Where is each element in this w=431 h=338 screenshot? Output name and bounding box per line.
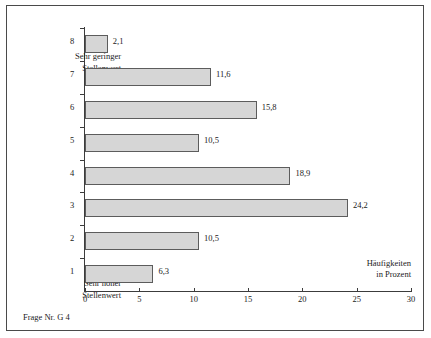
- x-axis-title-line2: in Prozent: [307, 269, 411, 280]
- bar-row: 10,5: [85, 225, 411, 258]
- bar-category-4[interactable]: [85, 167, 290, 185]
- x-axis-tick-25: [357, 288, 358, 292]
- bar-row: 2,1: [85, 28, 411, 61]
- bar-value-label-6: 15,8: [262, 102, 277, 113]
- figure-caption: Frage Nr. G 4: [23, 312, 70, 323]
- figure-container: Sehr geringer Stellenwert Sehr hoher Ste…: [0, 0, 431, 338]
- y-axis-tick: [80, 192, 84, 193]
- bar-category-6[interactable]: [85, 101, 257, 119]
- bar-category-2[interactable]: [85, 232, 199, 250]
- x-axis-title-line1: Häufigkeiten: [307, 258, 411, 269]
- bar-value-label-4: 18,9: [295, 168, 310, 179]
- x-axis-label-25: 25: [344, 294, 370, 305]
- y-axis-tick: [80, 61, 84, 62]
- y-axis-label-3: 3: [65, 200, 79, 211]
- x-axis-label-30: 30: [398, 294, 424, 305]
- bar-value-label-8: 2,1: [113, 36, 124, 47]
- bar-row: 15,8: [85, 94, 411, 127]
- x-axis-label-10: 10: [181, 294, 207, 305]
- plot-area: 6,310,524,218,910,515,811,62,1: [85, 28, 411, 291]
- x-axis-tick-30: [411, 288, 412, 292]
- x-axis-tick-20: [302, 288, 303, 292]
- y-axis-tick: [80, 94, 84, 95]
- x-axis-tick-5: [139, 288, 140, 292]
- y-axis-category-labels: Sehr geringer Stellenwert Sehr hoher Ste…: [65, 28, 81, 291]
- y-axis-tick: [80, 160, 84, 161]
- y-axis-label-7: 7: [65, 69, 79, 80]
- y-axis-tick: [80, 225, 84, 226]
- y-axis-tick: [80, 28, 84, 29]
- y-axis-label-6: 6: [65, 102, 79, 113]
- bar-category-1[interactable]: [85, 265, 153, 283]
- bar-value-label-3: 24,2: [353, 200, 368, 211]
- bar-category-3[interactable]: [85, 199, 348, 217]
- bar-value-label-1: 6,3: [158, 266, 169, 277]
- x-axis-tick-0: [85, 288, 86, 292]
- bar-row: 10,5: [85, 127, 411, 160]
- y-axis-label-4: 4: [65, 168, 79, 179]
- bar-category-5[interactable]: [85, 134, 199, 152]
- x-axis-tick-15: [248, 288, 249, 292]
- bar-row: 24,2: [85, 192, 411, 225]
- x-axis-label-15: 15: [235, 294, 261, 305]
- bar-value-label-5: 10,5: [204, 135, 219, 146]
- y-axis-label-1: 1: [65, 266, 79, 277]
- x-axis-label-0: 0: [72, 294, 98, 305]
- bar-category-7[interactable]: [85, 68, 211, 86]
- y-axis-tick: [80, 127, 84, 128]
- x-axis-title: Häufigkeiten in Prozent: [307, 258, 411, 279]
- figure-border: Sehr geringer Stellenwert Sehr hoher Ste…: [6, 5, 424, 331]
- y-axis-label-8: 8: [65, 36, 79, 47]
- x-axis-tick-10: [194, 288, 195, 292]
- x-axis-label-5: 5: [126, 294, 152, 305]
- bar-row: 18,9: [85, 160, 411, 193]
- y-axis-label-5: 5: [65, 135, 79, 146]
- y-axis-tick: [80, 258, 84, 259]
- y-axis-label-2: 2: [65, 233, 79, 244]
- bar-value-label-7: 11,6: [216, 69, 231, 80]
- x-axis-label-20: 20: [289, 294, 315, 305]
- bar-row: 11,6: [85, 61, 411, 94]
- bar-category-8[interactable]: [85, 35, 108, 53]
- bar-value-label-2: 10,5: [204, 233, 219, 244]
